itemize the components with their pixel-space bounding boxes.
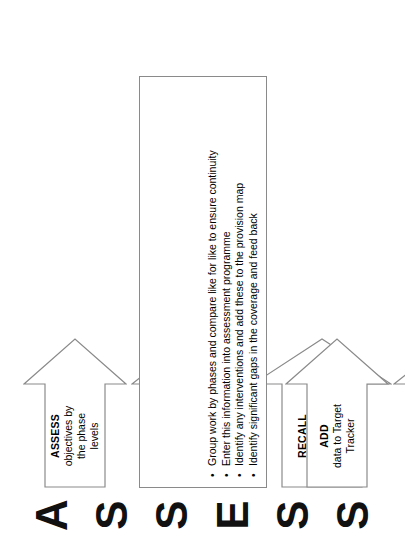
- acronym-letter-6: S: [331, 500, 375, 529]
- arrow-feed-back-label: FEED BACK significant findings: [393, 390, 405, 482]
- arrow-add-label: ADD data to Target Tracker: [285, 390, 389, 482]
- bullet-item: Identify significant gaps in the coverag…: [247, 87, 261, 477]
- acronym-letter-3: S: [150, 500, 194, 529]
- arrow-assess[interactable]: ASSESS objectives by the phase levels: [23, 338, 127, 488]
- bullet-item: Identify any interventions and add these…: [233, 87, 247, 477]
- arrow-assess-label: ASSESS objectives by the phase levels: [23, 390, 127, 482]
- bottom-arrow-row: ADD data to Target Tracker FEED BACK sig…: [285, 338, 405, 488]
- arrow-add-subtitle: data to Target Tracker: [331, 404, 357, 468]
- arrow-add-title: ADD: [318, 424, 331, 447]
- arrow-feed-back[interactable]: FEED BACK significant findings: [393, 338, 405, 488]
- arrow-assess-subtitle: objectives by the phase levels: [62, 406, 101, 467]
- acronym-letter-2: S: [90, 500, 134, 529]
- center-bullet-box: Group work by phases and compare like fo…: [139, 76, 267, 488]
- acronym-letter-5: S: [271, 500, 315, 529]
- bullet-item: Enter this information into assessment p…: [220, 87, 234, 477]
- acronym-letter-1: A: [30, 499, 74, 531]
- acronym-letter-4: E: [211, 500, 255, 529]
- assess-cycle-diagram: A S S E S S ASSESS objectives by the pha…: [0, 0, 405, 551]
- diagram-rotation-wrapper: A S S E S S ASSESS objectives by the pha…: [0, 0, 405, 551]
- bullet-list: Group work by phases and compare like fo…: [206, 87, 260, 477]
- arrow-add[interactable]: ADD data to Target Tracker: [285, 338, 389, 488]
- acronym-column: A S S E S S: [30, 491, 375, 539]
- arrow-assess-title: ASSESS: [49, 414, 62, 458]
- bullet-item: Group work by phases and compare like fo…: [206, 87, 220, 477]
